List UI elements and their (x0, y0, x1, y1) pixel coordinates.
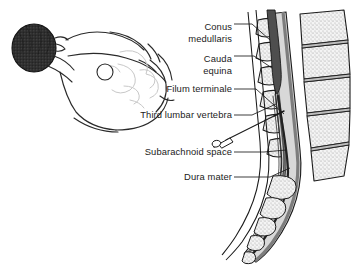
label-dura-mater: Dura mater (184, 171, 232, 182)
puncture-site-marker (97, 64, 113, 80)
label-subarachnoid-space: Subarachnoid space (145, 146, 232, 157)
illustration-root: Conus medullaris Cauda equina Filum term… (0, 0, 352, 272)
head-hair (12, 24, 56, 72)
label-third-lumbar-vertebra: Third lumbar vertebra (140, 109, 232, 120)
lumbar-puncture-figure: Conus medullaris Cauda equina Filum term… (0, 0, 352, 272)
label-cauda-equina-line2: equina (203, 65, 232, 76)
label-conus-medullaris-line1: Conus (204, 21, 232, 32)
label-cauda-equina-line1: Cauda (204, 53, 233, 64)
label-conus-medullaris-line2: medullaris (188, 33, 232, 44)
label-filum-terminale: Filum terminale (166, 83, 232, 94)
